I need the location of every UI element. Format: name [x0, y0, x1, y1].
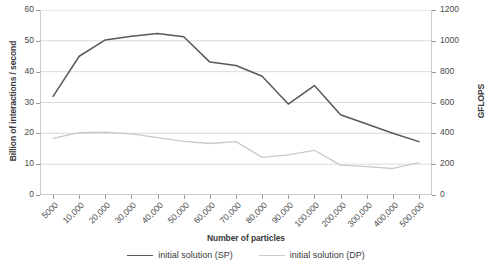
y-tick-label-primary: 40 [0, 66, 34, 76]
legend-item-label: initial solution (SP) [158, 250, 233, 260]
series-line [53, 33, 419, 141]
chart-container: Billion of interactions / second GFLOPS … [0, 0, 492, 269]
x-tick-mark [419, 195, 420, 199]
y-tick-mark-secondary [432, 133, 436, 134]
x-tick-mark [236, 195, 237, 199]
x-tick-mark [158, 195, 159, 199]
legend-line-icon [259, 255, 285, 256]
x-tick-mark [105, 195, 106, 199]
x-tick-mark [341, 195, 342, 199]
y-tick-label-primary: 0 [0, 189, 34, 199]
y-tick-label-primary: 30 [0, 97, 34, 107]
legend-line-icon [127, 255, 153, 256]
y-tick-mark-secondary [432, 10, 436, 11]
y-tick-label-secondary: 600 [440, 97, 480, 107]
y-tick-mark-secondary [432, 195, 436, 196]
plot-svg [40, 10, 432, 195]
y-tick-label-secondary: 0 [440, 189, 480, 199]
x-tick-mark [184, 195, 185, 199]
chart-legend: initial solution (SP)initial solution (D… [0, 250, 492, 260]
y-tick-mark-secondary [432, 164, 436, 165]
y-tick-mark-secondary [432, 103, 436, 104]
x-tick-mark [367, 195, 368, 199]
y-tick-label-primary: 20 [0, 127, 34, 137]
y-tick-label-secondary: 800 [440, 66, 480, 76]
x-tick-mark [210, 195, 211, 199]
plot-area [40, 10, 432, 195]
legend-item-label: initial solution (DP) [290, 250, 365, 260]
y-tick-mark-secondary [432, 72, 436, 73]
x-tick-mark [314, 195, 315, 199]
legend-item[interactable]: initial solution (SP) [127, 250, 233, 260]
y-tick-label-secondary: 200 [440, 158, 480, 168]
legend-item[interactable]: initial solution (DP) [259, 250, 365, 260]
x-tick-mark [131, 195, 132, 199]
y-tick-label-primary: 10 [0, 158, 34, 168]
y-tick-mark-secondary [432, 41, 436, 42]
y-tick-mark-primary [36, 195, 40, 196]
series-line [53, 132, 419, 168]
y-tick-label-primary: 60 [0, 4, 34, 14]
x-tick-mark [288, 195, 289, 199]
y-tick-label-primary: 50 [0, 35, 34, 45]
x-tick-mark [393, 195, 394, 199]
x-tick-mark [79, 195, 80, 199]
x-tick-mark [53, 195, 54, 199]
x-tick-mark [262, 195, 263, 199]
y-tick-label-secondary: 400 [440, 127, 480, 137]
y-tick-label-secondary: 1200 [440, 4, 480, 14]
y-tick-label-secondary: 1000 [440, 35, 480, 45]
